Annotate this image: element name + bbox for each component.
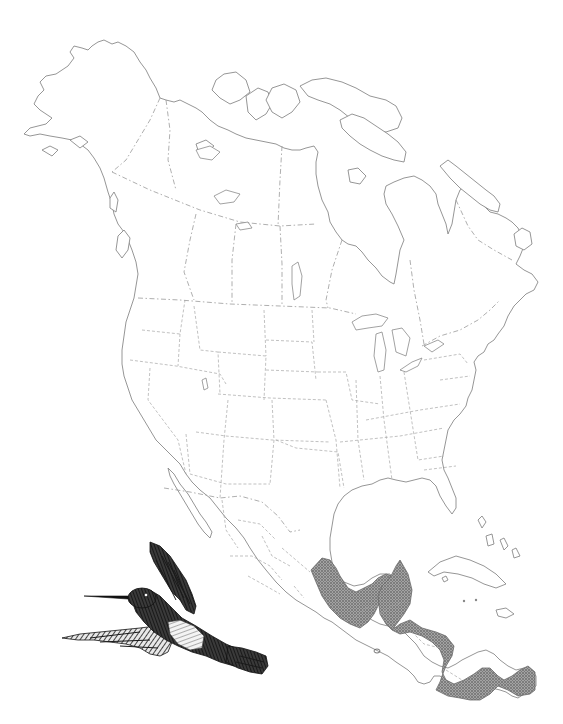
island-cuba bbox=[428, 556, 506, 588]
island-bahamas-2 bbox=[486, 534, 494, 546]
map-canvas bbox=[0, 0, 563, 724]
coastline bbox=[24, 40, 538, 698]
hummingbird-tail bbox=[226, 646, 268, 674]
island-cayman-2 bbox=[475, 599, 477, 601]
arctic-island-small-2 bbox=[42, 146, 58, 156]
island-bahamas-1 bbox=[478, 516, 486, 528]
range-map bbox=[0, 0, 563, 724]
arctic-island-devon bbox=[266, 84, 300, 118]
landmass-north-america bbox=[24, 40, 538, 698]
caribbean-islands bbox=[428, 516, 520, 618]
hummingbird-head bbox=[128, 588, 156, 608]
hummingbird-eye bbox=[144, 593, 148, 597]
arctic-island-victoria bbox=[212, 72, 250, 104]
island-cayman-1 bbox=[463, 600, 465, 602]
island-bahamas-4 bbox=[512, 548, 520, 558]
arctic-island-southampton bbox=[348, 168, 366, 184]
hummingbird-beak bbox=[84, 596, 128, 599]
range-area-yucatan bbox=[378, 560, 412, 630]
island-isla-juventud bbox=[442, 576, 448, 582]
island-bahamas-3 bbox=[500, 538, 508, 550]
hummingbird-illustration bbox=[62, 542, 268, 674]
island-jamaica bbox=[496, 608, 514, 618]
hummingbird-chest bbox=[168, 620, 204, 650]
